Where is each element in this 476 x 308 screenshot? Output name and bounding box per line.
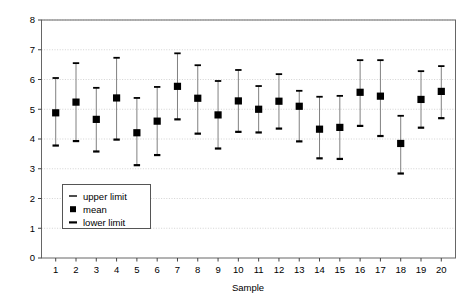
- x-tick-label: 2: [73, 264, 78, 275]
- y-tick-label: 5: [30, 104, 35, 115]
- x-tick-label: 17: [375, 264, 386, 275]
- mean-marker: [417, 96, 424, 103]
- x-tick-label: 6: [155, 264, 160, 275]
- mean-marker: [235, 97, 242, 104]
- x-tick-label: 3: [94, 264, 99, 275]
- mean-marker: [154, 118, 161, 125]
- chart-legend: upper limitmeanlower limit: [63, 185, 151, 229]
- y-axis-tick-labels: 012345678: [30, 14, 35, 263]
- mean-marker: [336, 124, 343, 131]
- x-tick-label: 5: [134, 264, 139, 275]
- x-tick-label: 20: [436, 264, 447, 275]
- error-bar-chart: 1234567891011121314151617181920 01234567…: [0, 0, 476, 308]
- x-tick-label: 9: [215, 264, 220, 275]
- x-tick-label: 8: [195, 264, 200, 275]
- legend-square-icon: [70, 206, 76, 212]
- x-tick-label: 7: [175, 264, 180, 275]
- y-tick-label: 6: [30, 74, 35, 85]
- x-tick-label: 16: [355, 264, 366, 275]
- y-tick-label: 4: [30, 133, 35, 144]
- y-tick-label: 1: [30, 223, 35, 234]
- mean-marker: [113, 94, 120, 101]
- x-tick-label: 10: [233, 264, 244, 275]
- mean-marker: [316, 126, 323, 133]
- mean-marker: [93, 116, 100, 123]
- mean-marker: [52, 109, 59, 116]
- mean-marker: [296, 103, 303, 110]
- x-tick-label: 1: [53, 264, 58, 275]
- y-tick-label: 3: [30, 163, 35, 174]
- mean-marker: [255, 106, 262, 113]
- x-axis-title: Sample: [232, 282, 264, 293]
- mean-marker: [194, 95, 201, 102]
- y-tick-label: 7: [30, 44, 35, 55]
- x-tick-label: 11: [254, 264, 264, 275]
- mean-marker: [377, 93, 384, 100]
- x-tick-label: 19: [416, 264, 427, 275]
- mean-marker: [438, 88, 445, 95]
- x-tick-label: 18: [395, 264, 406, 275]
- mean-marker: [357, 89, 364, 96]
- mean-marker: [214, 111, 221, 118]
- legend-item-label: lower limit: [83, 217, 126, 228]
- x-tick-label: 14: [314, 264, 325, 275]
- y-tick-label: 8: [30, 14, 35, 25]
- mean-marker: [275, 98, 282, 105]
- legend-item-label: mean: [83, 204, 107, 215]
- mean-marker: [174, 83, 181, 90]
- chart-container: 1234567891011121314151617181920 01234567…: [0, 0, 476, 308]
- mean-marker: [397, 140, 404, 147]
- mean-marker: [72, 99, 79, 106]
- chart-background: [0, 0, 476, 308]
- mean-marker: [133, 129, 140, 136]
- y-tick-label: 0: [30, 252, 35, 263]
- x-tick-label: 4: [114, 264, 119, 275]
- x-tick-label: 15: [335, 264, 346, 275]
- legend-item-label: upper limit: [83, 191, 127, 202]
- x-tick-label: 13: [294, 264, 305, 275]
- y-tick-label: 2: [30, 193, 35, 204]
- x-tick-label: 12: [274, 264, 285, 275]
